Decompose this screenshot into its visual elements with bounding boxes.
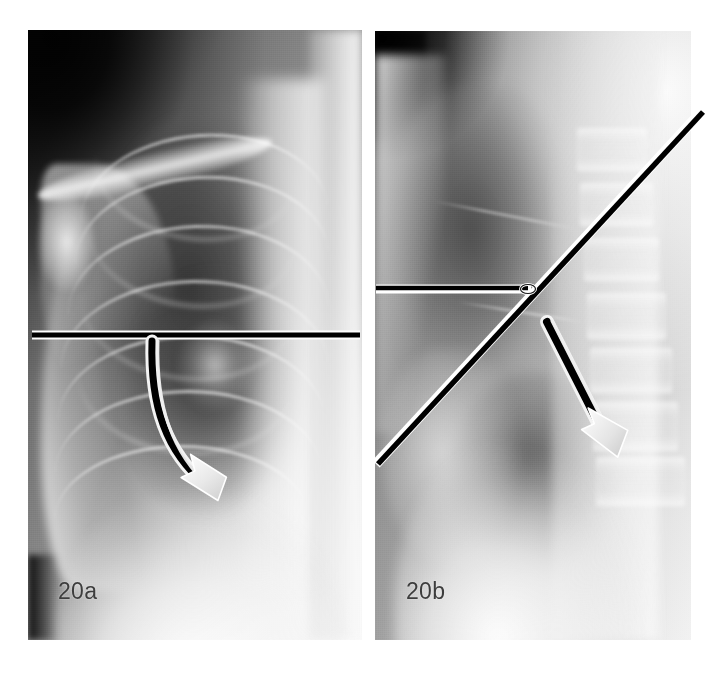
vertebra-shadow	[590, 348, 672, 394]
panel-caption-a: 20a	[58, 578, 97, 605]
figure-root: 20a 20b	[0, 0, 728, 676]
vertebra-shadow	[580, 183, 653, 226]
panel-caption-b: 20b	[406, 578, 445, 605]
xray-image-b	[375, 31, 691, 640]
vertebra-shadow	[584, 238, 660, 281]
radiograph-panel-a	[28, 30, 362, 640]
xray-image-a	[28, 30, 362, 640]
vertebra-shadow	[577, 128, 647, 171]
vertebra-shadow	[587, 293, 666, 339]
radiograph-panel-b	[375, 31, 691, 640]
film-edge-shadow-a	[28, 555, 58, 640]
vertebra-shadow	[593, 402, 678, 451]
hilum-shadow-a	[175, 317, 255, 415]
humeral-head-shadow-a	[38, 195, 95, 293]
